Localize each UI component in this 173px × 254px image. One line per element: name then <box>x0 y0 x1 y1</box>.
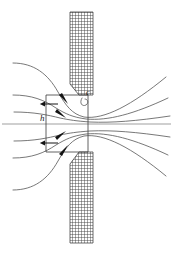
plates-group <box>70 12 93 243</box>
lower-plate <box>70 152 93 243</box>
tip-curl-mark <box>81 98 88 106</box>
streamline-arrowheads <box>55 93 68 156</box>
gap-label: h <box>40 113 45 123</box>
flow-diagram-figure: h c <box>0 0 173 254</box>
tip-detail-group <box>81 98 88 106</box>
upper-plate <box>70 12 93 95</box>
streamline-upper-mid <box>13 95 168 119</box>
tip-label: c <box>86 88 90 97</box>
streamline-arrow-lower-outer <box>59 145 68 156</box>
diagram-canvas: h c <box>0 0 173 254</box>
